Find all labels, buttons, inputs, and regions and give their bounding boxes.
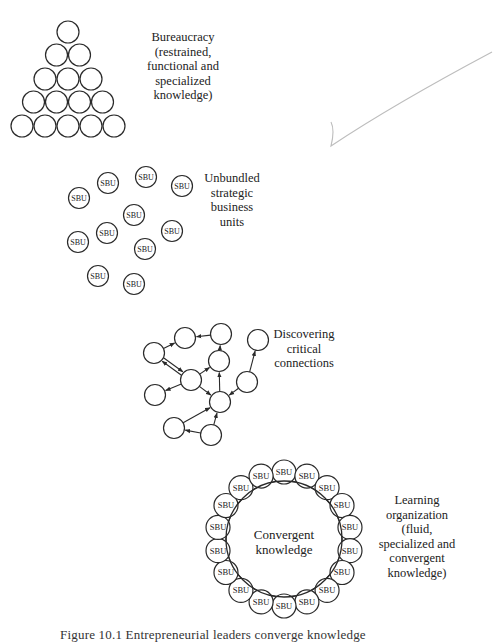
bureaucracy-pyramid <box>11 21 125 137</box>
pencil-mark <box>331 52 492 146</box>
sbu-label: SBU <box>276 467 293 477</box>
ring-sbu-circle: SBU <box>295 590 319 614</box>
sbu-label: SBU <box>174 182 190 191</box>
sbu-label: SBU <box>126 280 142 289</box>
network-node <box>210 392 231 413</box>
sbu-label: SBU <box>342 546 359 556</box>
sbu-label: SBU <box>164 227 180 236</box>
sbu-label: SBU <box>299 597 316 607</box>
sbu-label: SBU <box>210 546 227 556</box>
connection-arrow <box>163 343 174 348</box>
sbu-label: SBU <box>137 245 153 254</box>
sbu-circle: SBU <box>162 221 183 242</box>
pyramid-circle <box>80 115 102 137</box>
connection-arrow <box>199 386 210 395</box>
network-node <box>175 328 196 349</box>
connection-arrow <box>214 413 217 425</box>
sbu-label: SBU <box>70 238 86 247</box>
figure-caption: Figure 10.1 Entrepreneurial leaders conv… <box>60 627 366 643</box>
ring-sbu-circle: SBU <box>214 561 238 585</box>
sbu-circle: SBU <box>98 173 119 194</box>
convergent-knowledge-label: Convergent knowledge <box>234 527 334 557</box>
sbu-circle: SBU <box>135 239 156 260</box>
pyramid-circle <box>92 91 114 113</box>
network-node <box>144 343 165 364</box>
sbu-circle: SBU <box>124 205 145 226</box>
pyramid-circle <box>46 44 68 66</box>
sbu-label: SBU <box>299 471 316 481</box>
connection-arrow <box>183 408 210 423</box>
sbu-label: SBU <box>138 173 154 182</box>
sbu-label: SBU <box>253 597 270 607</box>
sbu-label: SBU <box>276 601 293 611</box>
sbu-label: SBU <box>334 567 351 577</box>
pyramid-circle <box>80 68 102 90</box>
sbu-circle: SBU <box>97 223 118 244</box>
ring-sbu-circle: SBU <box>330 494 354 518</box>
critical-connections-network <box>144 324 269 446</box>
pyramid-circle <box>11 115 33 137</box>
connections-label: Discovering critical connections <box>262 327 346 371</box>
pyramid-circle <box>103 115 125 137</box>
pyramid-circle <box>34 68 56 90</box>
sbu-label: SBU <box>71 194 87 203</box>
sbu-circle: SBU <box>136 167 157 188</box>
sbu-label: SBU <box>218 567 235 577</box>
sbu-label: SBU <box>100 179 116 188</box>
sbu-circle: SBU <box>88 266 109 287</box>
pyramid-circle <box>69 91 91 113</box>
connection-arrow <box>166 384 182 391</box>
sbu-label: SBU <box>342 522 359 532</box>
bureaucracy-label: Bureaucracy (restrained, functional and … <box>138 30 228 103</box>
sbu-label: SBU <box>210 522 227 532</box>
sbu-label: SBU <box>218 500 235 510</box>
connection-arrow <box>200 367 210 374</box>
sbu-label: SBU <box>233 585 250 595</box>
unbundled-sbu-group: SBUSBUSBUSBUSBUSBUSBUSBUSBUSBUSBU <box>68 167 193 295</box>
sbu-circle: SBU <box>69 188 90 209</box>
sbu-label: SBU <box>99 229 115 238</box>
network-node <box>181 370 202 391</box>
sbu-label: SBU <box>334 500 351 510</box>
sbu-circle: SBU <box>68 232 89 253</box>
sbu-label: SBU <box>126 211 142 220</box>
connection-arrow <box>229 388 238 395</box>
unbundled-label: Unbundled strategic business units <box>192 171 272 229</box>
pyramid-circle <box>57 115 79 137</box>
ring-sbu-circle: SBU <box>249 464 273 488</box>
pyramid-circle <box>69 44 91 66</box>
sbu-label: SBU <box>319 585 336 595</box>
learning-org-label: Learning organization (fluid, specialize… <box>371 493 463 580</box>
connection-arrow <box>250 351 255 372</box>
network-node <box>209 351 230 372</box>
network-node <box>164 418 185 439</box>
sbu-label: SBU <box>253 471 270 481</box>
network-node <box>201 425 222 446</box>
sbu-circle: SBU <box>172 176 193 197</box>
network-node <box>211 324 232 345</box>
sbu-label: SBU <box>90 272 106 281</box>
network-node <box>237 372 258 393</box>
pyramid-circle <box>57 68 79 90</box>
pyramid-circle <box>46 91 68 113</box>
network-node <box>145 385 166 406</box>
sbu-label: SBU <box>319 483 336 493</box>
sbu-label: SBU <box>233 483 250 493</box>
connection-arrow <box>185 430 200 433</box>
connection-arrow <box>196 335 210 337</box>
sbu-circle: SBU <box>124 274 145 295</box>
pyramid-circle <box>34 115 56 137</box>
pyramid-circle <box>23 91 45 113</box>
pyramid-circle <box>57 21 79 43</box>
